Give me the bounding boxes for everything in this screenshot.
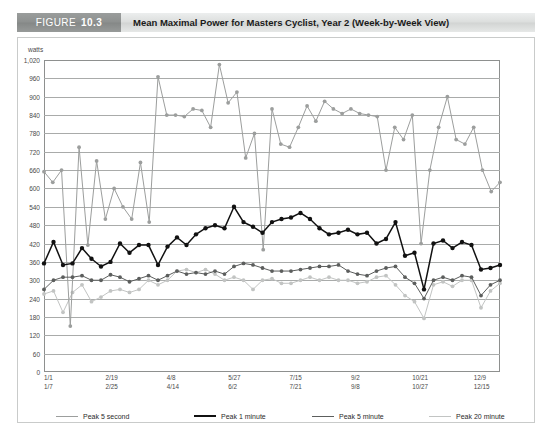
data-point (498, 180, 502, 184)
data-point (317, 226, 321, 230)
data-point (128, 291, 132, 295)
data-point (128, 280, 132, 284)
data-point (42, 170, 46, 174)
data-point (109, 289, 113, 293)
data-point (479, 294, 483, 298)
legend-label: Peak 5 second (83, 413, 129, 420)
data-point (223, 272, 227, 276)
y-axis-tick-label: 960 (6, 75, 40, 82)
data-point (305, 104, 309, 108)
data-point (431, 241, 435, 245)
x-tick-line1: 7/15 (290, 374, 302, 381)
data-point (437, 125, 441, 129)
legend-item-peak-5-minute[interactable]: Peak 5 minute (312, 413, 384, 420)
data-point (289, 269, 293, 273)
y-axis-tick-label: 660 (6, 167, 40, 174)
data-point (194, 232, 198, 236)
data-point (270, 269, 274, 273)
data-point (384, 237, 388, 241)
y-axis-tick-label: 1,020 (6, 57, 40, 64)
data-point (103, 217, 107, 221)
data-point (121, 205, 125, 209)
x-tick-line2: 10/27 (412, 383, 428, 390)
data-point (70, 261, 74, 265)
x-tick-line2: 7/21 (290, 383, 302, 390)
data-point (488, 266, 492, 270)
data-point (68, 324, 72, 328)
data-point (77, 145, 81, 149)
x-tick-line2: 2/25 (105, 383, 117, 390)
data-point (375, 115, 379, 119)
data-point (450, 246, 454, 250)
x-axis-tick-label: 2/192/25 (105, 374, 117, 390)
data-point (242, 278, 246, 282)
x-tick-line2: 12/15 (474, 383, 490, 390)
data-point (99, 264, 103, 268)
legend-item-peak-5-second[interactable]: Peak 5 second (56, 413, 129, 420)
data-point (279, 142, 283, 146)
data-point (498, 278, 502, 282)
data-point (413, 300, 417, 304)
data-point (340, 112, 344, 116)
data-point (308, 217, 312, 221)
data-point (175, 235, 179, 239)
y-axis-tick-label: 180 (6, 313, 40, 320)
data-point (470, 275, 474, 279)
data-point (226, 101, 230, 105)
data-point (191, 107, 195, 111)
data-point (244, 156, 248, 160)
x-tick-line1: 2/19 (105, 374, 117, 381)
x-tick-line2: 1/7 (44, 383, 53, 390)
data-point (147, 278, 151, 282)
data-point (137, 288, 141, 292)
data-point (209, 125, 213, 129)
data-point (175, 269, 179, 273)
data-point (204, 268, 208, 272)
data-point (42, 288, 46, 292)
data-point (147, 274, 151, 278)
x-tick-line1: 9/2 (351, 374, 360, 381)
data-point (403, 254, 407, 258)
legend-label: Peak 5 minute (339, 413, 384, 420)
figure-title: Mean Maximal Power for Masters Cyclist, … (133, 17, 449, 28)
data-point (454, 138, 458, 142)
data-point (481, 168, 485, 172)
x-tick-line2: 9/8 (351, 383, 360, 390)
data-point (288, 145, 292, 149)
x-axis-tick-label: 1/11/7 (44, 374, 53, 390)
data-point (86, 243, 90, 247)
x-tick-line2: 6/2 (228, 383, 240, 390)
data-point (232, 205, 236, 209)
data-point (280, 281, 284, 285)
data-point (337, 263, 341, 267)
data-point (422, 297, 426, 301)
legend-swatch (194, 415, 216, 417)
data-point (394, 265, 398, 269)
data-point (99, 295, 103, 299)
data-point (280, 269, 284, 273)
x-axis-tick-label: 12/912/15 (474, 374, 490, 390)
x-tick-line1: 1/1 (44, 374, 53, 381)
series-peak-5-minute (42, 262, 502, 301)
data-point (270, 220, 274, 224)
data-point (469, 243, 473, 247)
data-point (365, 231, 369, 235)
data-point (384, 168, 388, 172)
data-point (251, 288, 255, 292)
data-point (270, 107, 274, 111)
x-axis-tick-label: 7/157/21 (290, 374, 302, 390)
data-point (422, 317, 426, 321)
data-point (95, 159, 99, 163)
data-point (51, 180, 55, 184)
data-point (182, 115, 186, 119)
data-point (422, 287, 426, 291)
legend-item-peak-1-minute[interactable]: Peak 1 minute (194, 413, 266, 420)
data-point (419, 242, 423, 246)
data-point (356, 272, 360, 276)
data-point (156, 75, 160, 79)
data-point (251, 225, 255, 229)
legend-item-peak-20-minute[interactable]: Peak 20 minute (429, 413, 505, 420)
data-point (147, 220, 151, 224)
data-point (308, 266, 312, 270)
data-point (356, 281, 360, 285)
